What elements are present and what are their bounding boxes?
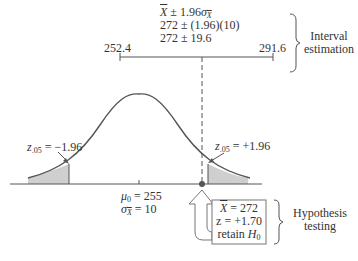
interval-estimation-brace (290, 14, 300, 72)
hollow-arrow-icon (189, 190, 213, 240)
standard-error-label: σX = 10 (121, 203, 157, 216)
decision-result: retain H0 (212, 228, 266, 241)
left-critical-label: z.05 = −1.96 (27, 141, 82, 154)
right-rejection-region (208, 164, 248, 184)
interval-formula-line3: 272 ± 19.6 (160, 32, 212, 45)
interval-lower-bound: 252.4 (104, 42, 131, 55)
right-critical-arrow (211, 153, 224, 161)
left-rejection-region (28, 164, 69, 184)
right-critical-label: z.05 = +1.96 (215, 140, 270, 153)
interval-upper-bound: 291.6 (259, 42, 286, 55)
hypothesis-testing-label-line2: testing (282, 220, 358, 233)
sample-mean-point (199, 181, 205, 187)
interval-estimation-label-line2: estimation (300, 43, 358, 56)
normal-curve (28, 94, 250, 178)
